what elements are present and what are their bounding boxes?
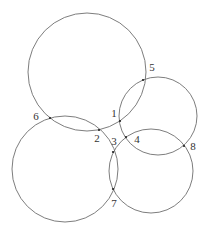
intersection-point-8: [183, 145, 185, 147]
point-label-7: 7: [111, 197, 117, 209]
circle-bottom-left: [12, 116, 118, 222]
intersection-point-5: [142, 79, 144, 81]
circle-intersection-diagram: 12345678: [0, 0, 206, 234]
intersection-point-6: [49, 117, 51, 119]
circle-right-upper: [119, 77, 197, 155]
intersection-points-group: [49, 79, 185, 190]
point-label-1: 1: [111, 107, 117, 119]
point-label-2: 2: [94, 132, 100, 144]
intersection-point-3: [112, 151, 114, 153]
intersection-point-1: [119, 120, 121, 122]
circles-group: [12, 13, 197, 222]
intersection-point-7: [112, 188, 114, 190]
point-label-5: 5: [149, 61, 155, 73]
point-label-6: 6: [33, 110, 39, 122]
intersection-point-2: [98, 129, 100, 131]
point-label-8: 8: [190, 140, 196, 152]
point-label-3: 3: [111, 135, 117, 147]
intersection-point-4: [125, 136, 127, 138]
point-label-4: 4: [134, 133, 140, 145]
circle-bottom-right: [109, 129, 193, 213]
circle-top: [28, 13, 146, 131]
